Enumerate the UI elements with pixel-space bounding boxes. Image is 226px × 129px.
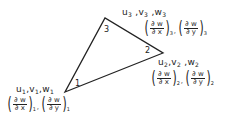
vertex-number-2: 2 bbox=[145, 47, 150, 55]
node-2-slope-label: ( ∂ w∂ x )2 , ( ∂ w∂ y )2 bbox=[150, 69, 214, 87]
node-3-slope-label: ( ∂ w∂ x )3 , ( ∂ w∂ y )3 bbox=[143, 19, 207, 37]
node-1-slope-label: ( ∂ w∂ x )1 , ( ∂ w∂ y )1 bbox=[6, 95, 70, 113]
vertex-number-3: 3 bbox=[104, 26, 109, 34]
vertex-number-1: 1 bbox=[75, 80, 80, 88]
